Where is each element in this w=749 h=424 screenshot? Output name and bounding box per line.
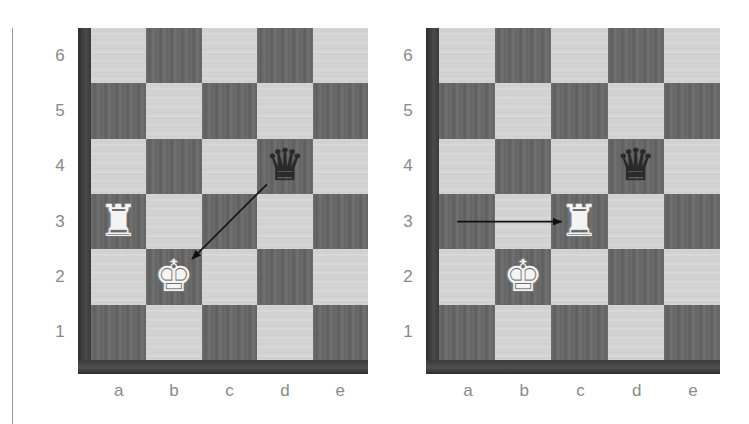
black-queen-icon: ♛ <box>616 143 655 187</box>
rank-label-3: 3 <box>50 212 70 232</box>
square-c5 <box>202 83 257 138</box>
square-d6 <box>257 28 312 83</box>
board-frame-bottom-edge <box>426 360 720 374</box>
square-e4 <box>664 139 720 194</box>
black-queen-icon: ♛ <box>265 143 304 187</box>
rank-label-4: 4 <box>50 156 70 176</box>
square-e3 <box>313 194 368 249</box>
chess-diagram-right: ♛♜♚ <box>426 28 720 374</box>
square-e3 <box>664 194 720 249</box>
square-b3 <box>146 194 201 249</box>
square-e4 <box>313 139 368 194</box>
square-d5 <box>608 83 664 138</box>
square-e5 <box>313 83 368 138</box>
square-c3 <box>202 194 257 249</box>
square-c5 <box>551 83 607 138</box>
square-c4 <box>551 139 607 194</box>
square-b5 <box>495 83 551 138</box>
square-d5 <box>257 83 312 138</box>
chess-diagram-left: ♛♜♚ <box>78 28 368 374</box>
rank-label-5: 5 <box>50 101 70 121</box>
square-b1 <box>495 305 551 360</box>
square-e1 <box>313 305 368 360</box>
square-c1 <box>202 305 257 360</box>
rank-label-4: 4 <box>398 156 418 176</box>
square-c6 <box>202 28 257 83</box>
square-e2 <box>313 249 368 304</box>
rank-label-6: 6 <box>50 46 70 66</box>
file-label-d: d <box>627 381 647 401</box>
square-e6 <box>313 28 368 83</box>
chess-board: ♛♜♚ <box>91 28 368 360</box>
white-king-icon: ♚ <box>154 254 193 298</box>
square-c1 <box>551 305 607 360</box>
square-b2: ♚ <box>495 249 551 304</box>
square-b1 <box>146 305 201 360</box>
board-frame-left-edge <box>78 28 91 374</box>
square-a4 <box>91 139 146 194</box>
file-label-a: a <box>458 381 478 401</box>
chess-board: ♛♜♚ <box>439 28 720 360</box>
file-label-b: b <box>164 381 184 401</box>
file-label-c: c <box>220 381 240 401</box>
square-e2 <box>664 249 720 304</box>
white-rook-icon: ♜ <box>560 199 599 243</box>
file-label-c: c <box>571 381 591 401</box>
square-d3 <box>608 194 664 249</box>
square-c4 <box>202 139 257 194</box>
square-e1 <box>664 305 720 360</box>
square-b6 <box>146 28 201 83</box>
rank-label-1: 1 <box>50 322 70 342</box>
rank-label-5: 5 <box>398 101 418 121</box>
square-c6 <box>551 28 607 83</box>
square-d4: ♛ <box>608 139 664 194</box>
square-d6 <box>608 28 664 83</box>
square-d1 <box>257 305 312 360</box>
white-king-icon: ♚ <box>504 254 543 298</box>
square-a2 <box>91 249 146 304</box>
square-a2 <box>439 249 495 304</box>
file-label-e: e <box>683 381 703 401</box>
square-b5 <box>146 83 201 138</box>
board-frame-bottom-edge <box>78 360 368 374</box>
square-c2 <box>551 249 607 304</box>
board-frame-left-edge <box>426 28 439 374</box>
square-a3 <box>439 194 495 249</box>
square-a1 <box>91 305 146 360</box>
square-a3: ♜ <box>91 194 146 249</box>
square-d4: ♛ <box>257 139 312 194</box>
rank-label-3: 3 <box>398 212 418 232</box>
square-a5 <box>91 83 146 138</box>
file-label-b: b <box>514 381 534 401</box>
rank-label-2: 2 <box>50 267 70 287</box>
vertical-separator-line <box>12 28 13 424</box>
square-a1 <box>439 305 495 360</box>
square-a6 <box>439 28 495 83</box>
square-b2: ♚ <box>146 249 201 304</box>
file-label-e: e <box>330 381 350 401</box>
square-c3: ♜ <box>551 194 607 249</box>
square-b4 <box>495 139 551 194</box>
white-rook-icon: ♜ <box>99 199 138 243</box>
file-label-a: a <box>109 381 129 401</box>
square-d2 <box>257 249 312 304</box>
square-a5 <box>439 83 495 138</box>
rank-label-2: 2 <box>398 267 418 287</box>
square-b6 <box>495 28 551 83</box>
square-d2 <box>608 249 664 304</box>
square-d1 <box>608 305 664 360</box>
file-label-d: d <box>275 381 295 401</box>
square-e6 <box>664 28 720 83</box>
rank-label-1: 1 <box>398 322 418 342</box>
square-d3 <box>257 194 312 249</box>
square-e5 <box>664 83 720 138</box>
square-a4 <box>439 139 495 194</box>
square-b4 <box>146 139 201 194</box>
square-a6 <box>91 28 146 83</box>
rank-label-6: 6 <box>398 46 418 66</box>
square-c2 <box>202 249 257 304</box>
square-b3 <box>495 194 551 249</box>
